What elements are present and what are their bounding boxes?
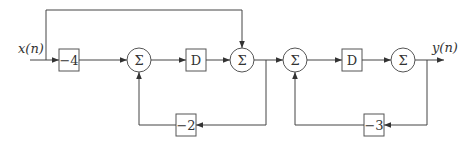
output-label: y(n) bbox=[431, 40, 458, 55]
delay-block-2: D bbox=[342, 49, 362, 71]
delay-block-1: D bbox=[186, 49, 206, 71]
gain-block-minus2: −2 bbox=[176, 114, 196, 136]
sum1-label: Σ bbox=[134, 53, 143, 68]
gain-block-minus3: −3 bbox=[364, 114, 384, 136]
gain-block-minus4: −4 bbox=[59, 49, 79, 71]
summer-4: Σ bbox=[391, 48, 415, 72]
input-label: x(n) bbox=[18, 41, 44, 56]
sum2-label: Σ bbox=[237, 53, 246, 68]
gain2-label: −2 bbox=[176, 118, 195, 133]
summer-2: Σ bbox=[230, 48, 254, 72]
gain1-label: −4 bbox=[59, 53, 78, 68]
sum3-label: Σ bbox=[290, 53, 299, 68]
summer-1: Σ bbox=[127, 48, 151, 72]
delay2-label: D bbox=[347, 53, 357, 68]
block-diagram: x(n) −4 Σ D Σ −2 Σ D bbox=[0, 0, 465, 146]
sum4-label: Σ bbox=[398, 53, 407, 68]
summer-3: Σ bbox=[283, 48, 307, 72]
gain3-label: −3 bbox=[364, 118, 383, 133]
wire-gain3-to-sum3 bbox=[295, 72, 364, 125]
delay1-label: D bbox=[191, 53, 201, 68]
wire-gain2-to-sum1 bbox=[139, 72, 176, 125]
